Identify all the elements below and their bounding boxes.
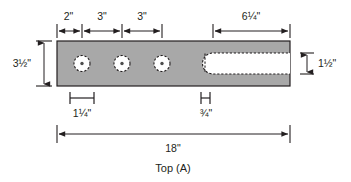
left-dimension-group: 3½" (13, 41, 52, 86)
hole-2 (114, 56, 130, 72)
overall-dimension-group: 18" (57, 125, 290, 154)
hole-3 (154, 56, 170, 72)
drawing-canvas: 2" 3" 3" 6¼" 3½" 1½" 1¼" ¾" (0, 0, 351, 182)
figure-caption: Top (A) (155, 162, 190, 174)
dimlabel-slot-width: 1½" (318, 57, 337, 69)
dimlabel-hole-diameter: 1¼" (73, 107, 92, 119)
dimlabel-slot-end-width: ¾" (200, 107, 213, 119)
technical-drawing-figure: 2" 3" 3" 6¼" 3½" 1½" 1¼" ¾" (0, 0, 351, 182)
dimlabel-slot-length: 6¼" (242, 10, 261, 22)
slot-end-width-bracket: ¾" (200, 92, 213, 119)
dimlabel-plate-width: 3½" (13, 57, 32, 69)
plate-group (57, 41, 296, 86)
hole-1 (74, 56, 90, 72)
right-dimension-group: 1½" (300, 53, 337, 74)
top-dimension-group: 2" 3" 3" 6¼" (57, 10, 290, 38)
open-slot (203, 53, 296, 74)
dimlabel-overall-length: 18" (165, 142, 181, 154)
dimlabel-hole1-to-hole2: 3" (97, 10, 107, 22)
dimlabel-hole2-to-hole3: 3" (137, 10, 147, 22)
dimlabel-edge-to-hole1: 2" (64, 10, 74, 22)
hole-diameter-bracket: 1¼" (70, 92, 94, 119)
